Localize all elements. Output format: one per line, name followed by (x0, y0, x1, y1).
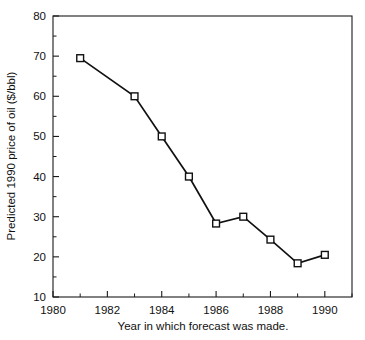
data-point-marker (158, 133, 165, 140)
data-point-marker (186, 173, 193, 180)
data-point-marker (267, 236, 274, 243)
y-tick-label: 80 (33, 10, 46, 22)
x-tick-label: 1982 (95, 304, 121, 316)
y-tick-label: 40 (33, 171, 46, 183)
x-axis-title: Year in which forecast was made. (118, 320, 289, 332)
chart-page: 1020304050607080 19801982198419861988199… (0, 0, 365, 340)
x-tick-label: 1990 (312, 304, 338, 316)
x-tick-label: 1986 (203, 304, 229, 316)
data-point-marker (77, 55, 84, 62)
y-tick-label: 30 (33, 211, 46, 223)
data-point-marker (321, 251, 328, 258)
x-tick-label: 1988 (258, 304, 284, 316)
data-point-marker (131, 93, 138, 100)
x-tick-label: 1980 (40, 304, 66, 316)
y-tick-label: 70 (33, 50, 46, 62)
y-tick-label: 60 (33, 90, 46, 102)
y-tick-label: 20 (33, 251, 46, 263)
y-tick-label: 10 (33, 291, 46, 303)
x-tick-label: 1984 (149, 304, 175, 316)
chart-background (0, 0, 365, 340)
y-tick-label: 50 (33, 130, 46, 142)
data-point-marker (213, 220, 220, 227)
oil-price-forecast-line-chart: 1020304050607080 19801982198419861988199… (0, 0, 365, 340)
y-axis-title: Predicted 1990 price of oil ($/bbl) (5, 71, 17, 240)
data-point-marker (240, 213, 247, 220)
data-point-marker (294, 260, 301, 267)
